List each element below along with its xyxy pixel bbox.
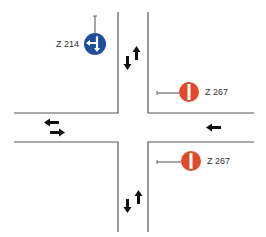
arrow-left-icon: [44, 119, 59, 127]
east-arm-arrows: [206, 124, 221, 132]
sign-label-z267-upper: Z 267: [205, 87, 228, 97]
road-edge-se: [148, 142, 254, 232]
road-edge-sw: [14, 142, 118, 232]
arrow-up-icon: [133, 46, 141, 60]
road-edge-ne: [148, 12, 254, 113]
west-arm-arrows: [44, 119, 65, 137]
south-arm-arrows: [124, 190, 143, 213]
sign-label-z267-lower: Z 267: [207, 156, 230, 166]
arrow-right-icon: [50, 129, 65, 137]
road-edge-nw: [14, 12, 118, 113]
sign-label-z214: Z 214: [56, 39, 79, 49]
arrow-up-icon: [135, 190, 143, 204]
arrow-down-icon: [124, 199, 132, 213]
intersection-diagram: [0, 0, 266, 237]
sign-z214: [84, 16, 106, 55]
sign-z267-upper: [157, 82, 199, 102]
arrow-down-icon: [124, 56, 132, 70]
north-arm-arrows: [124, 46, 141, 70]
arrow-left-icon: [206, 124, 221, 132]
sign-z267-lower: [157, 151, 201, 171]
